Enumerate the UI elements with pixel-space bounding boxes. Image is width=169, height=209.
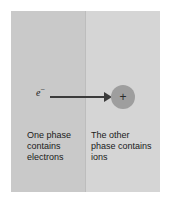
electron-charge-superscript: − (40, 85, 45, 94)
phase-interface-line (85, 11, 86, 192)
electron-label: e− (36, 88, 45, 98)
caption-right-phase: The other phase contains ions (91, 130, 157, 163)
phase-left-panel (11, 11, 85, 192)
electron-transfer-arrow-line (50, 96, 107, 98)
caption-left-phase: One phase contains electrons (27, 130, 83, 163)
figure-canvas: e− + One phase contains electrons The ot… (0, 0, 169, 209)
ion-charge-symbol: + (111, 85, 135, 109)
